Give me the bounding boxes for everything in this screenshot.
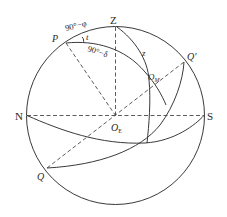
label-hour-angle: t xyxy=(86,32,89,42)
label-star: OM xyxy=(148,72,161,83)
vertical-circle-arc xyxy=(117,27,150,143)
celestial-sphere-diagram: Z P N S Q' Q OE OM z 90°−φ 90°−δ t xyxy=(0,0,227,217)
label-equator-lower: Q xyxy=(37,171,45,182)
label-center: OE xyxy=(111,122,122,134)
label-zenith-distance: z xyxy=(141,48,146,58)
label-colatitude: 90°−φ xyxy=(64,18,87,33)
label-codeclination: 90°−δ xyxy=(86,43,109,59)
label-zenith: Z xyxy=(110,14,117,26)
equator-diameter xyxy=(47,62,184,168)
label-south: S xyxy=(207,110,213,122)
label-pole: P xyxy=(51,33,58,44)
label-equator-upper: Q' xyxy=(187,51,197,62)
label-north: N xyxy=(15,110,23,122)
